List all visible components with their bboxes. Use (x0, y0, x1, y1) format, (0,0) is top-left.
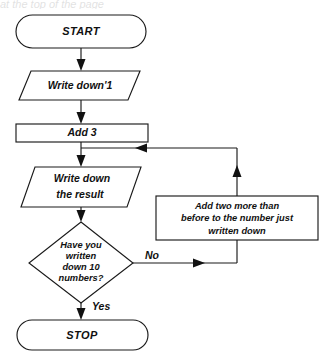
write-one-label: Write down'1 (48, 79, 113, 91)
arrowhead-down-icon (77, 155, 86, 167)
flowchart-canvas: at the top of the page (0, 0, 330, 360)
add-two-more-label-line-3: written down (208, 226, 266, 236)
connector-write-one-to-add-three (77, 100, 86, 124)
connector-start-to-write-one (77, 48, 86, 71)
node-stop[interactable]: STOP (17, 320, 148, 350)
connector-decision-yes-to-stop (77, 303, 86, 320)
decision-label-line-3: down 10 (62, 262, 100, 272)
arrowhead-down-icon (77, 308, 86, 320)
arrowhead-right-icon (193, 259, 205, 268)
decision-label-line-2: written (66, 251, 97, 261)
add-two-more-label-line-1: Add two more than (194, 201, 280, 211)
stop-label: STOP (66, 329, 98, 341)
arrowhead-up-icon (233, 165, 242, 177)
node-decision[interactable]: Have you written down 10 numbers? (29, 222, 133, 303)
edge-label-no: No (145, 249, 160, 261)
add-two-more-label-line-2: before to the number just (181, 213, 294, 223)
cropped-caption-fragment: at the top of the page (0, 0, 330, 9)
write-result-label-line-2: the result (56, 188, 104, 200)
decision-label-line-4: numbers? (59, 273, 104, 283)
add-three-label: Add 3 (66, 126, 96, 138)
write-result-label-line-1: Write down (54, 172, 110, 184)
arrowhead-down-icon (77, 112, 86, 124)
edge-label-yes: Yes (92, 300, 110, 312)
arrowhead-left-icon (135, 144, 147, 153)
node-add-two-more[interactable]: Add two more than before to the number j… (156, 196, 318, 240)
connector-loop-return-horizontal (81, 144, 237, 153)
start-label: START (62, 25, 101, 37)
node-write-one[interactable]: Write down'1 (19, 71, 140, 100)
flowchart-svg: START Write down'1 Add 3 Write down the … (0, 0, 330, 360)
node-add-three[interactable]: Add 3 (16, 124, 148, 142)
connector-write-result-to-decision (77, 207, 86, 222)
arrowhead-down-icon (77, 59, 86, 71)
node-start[interactable]: START (16, 15, 146, 48)
node-write-result[interactable]: Write down the result (21, 167, 141, 207)
connector-loop-return-vertical (233, 148, 242, 196)
decision-label-line-1: Have you (60, 240, 102, 250)
arrowhead-down-icon (77, 210, 86, 222)
connector-add-three-to-write-result (77, 142, 86, 167)
